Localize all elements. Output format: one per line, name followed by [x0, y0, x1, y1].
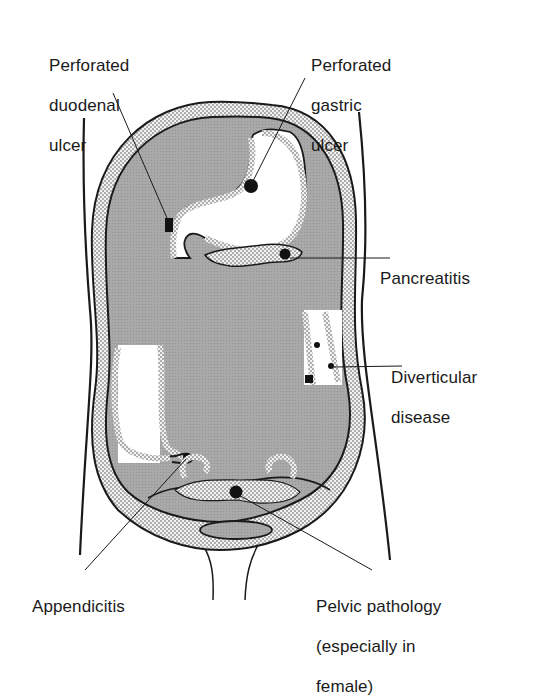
gastric-ulcer-perforation	[244, 179, 258, 193]
label-line: Pelvic pathology	[316, 597, 441, 617]
label-diverticular-disease: Diverticular disease	[391, 348, 477, 448]
right-thigh-outline	[245, 545, 258, 600]
label-line: disease	[391, 408, 477, 428]
diverticulum-2	[328, 363, 334, 369]
label-line: ulcer	[311, 136, 391, 156]
diverticulum-3	[305, 375, 313, 383]
label-pancreatitis: Pancreatitis	[380, 249, 470, 309]
duodenal-ulcer-perforation	[165, 218, 173, 232]
label-perforated-gastric-ulcer: Perforated gastric ulcer	[311, 36, 391, 176]
label-line: gastric	[311, 96, 391, 116]
label-appendicitis: Appendicitis	[32, 577, 125, 637]
bladder	[200, 521, 272, 539]
label-line: (especially in	[316, 637, 441, 657]
left-thigh-outline	[203, 545, 213, 600]
diverticulum-1	[314, 342, 320, 348]
left-flank-outline	[80, 118, 91, 555]
label-line: duodenal	[49, 96, 129, 116]
pancreatitis-lesion	[280, 249, 291, 260]
label-line: Pancreatitis	[380, 269, 470, 289]
label-line: Diverticular	[391, 368, 477, 388]
label-line: ulcer	[49, 136, 129, 156]
right-flank-outline	[359, 112, 390, 560]
label-line: Perforated	[311, 56, 391, 76]
label-line: female)	[316, 677, 441, 697]
label-line: Perforated	[49, 56, 129, 76]
label-line: Appendicitis	[32, 597, 125, 617]
label-pelvic-pathology: Pelvic pathology (especially in female)	[316, 577, 441, 699]
label-perforated-duodenal-ulcer: Perforated duodenal ulcer	[49, 36, 129, 176]
